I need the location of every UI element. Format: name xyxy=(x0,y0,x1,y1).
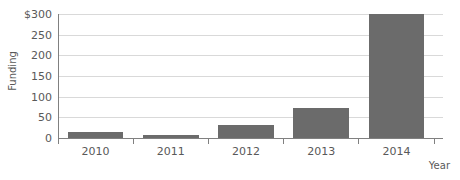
bar-2013[interactable] xyxy=(293,108,349,138)
x-axis-tick xyxy=(58,139,59,144)
x-axis-tick xyxy=(283,139,284,144)
bar-slot xyxy=(133,14,208,138)
x-axis-tick-label: 2014 xyxy=(359,146,434,158)
x-axis-line xyxy=(58,138,443,139)
x-axis-tick xyxy=(208,139,209,144)
y-axis-tick-label: 250 xyxy=(0,30,52,41)
x-axis-tick-label: 2012 xyxy=(208,146,283,158)
y-axis-line xyxy=(58,14,59,139)
y-axis-tick-label: 0 xyxy=(0,133,52,144)
bar-slot xyxy=(359,14,434,138)
bar-chart: $300 250 200 150 100 50 0 Funding xyxy=(0,0,460,180)
x-axis-tick xyxy=(133,139,134,144)
bar-slot xyxy=(284,14,359,138)
x-axis-title: Year xyxy=(429,161,450,171)
y-axis-tick-label: 50 xyxy=(0,112,52,123)
bar-2012[interactable] xyxy=(218,125,274,138)
bars-layer xyxy=(58,14,434,138)
bar-2014[interactable] xyxy=(369,14,425,138)
x-axis-tick xyxy=(358,139,359,144)
x-axis-tick xyxy=(434,139,435,144)
bar-slot xyxy=(208,14,283,138)
bar-slot xyxy=(58,14,133,138)
x-axis-tick-label: 2011 xyxy=(133,146,208,158)
x-axis-tick-label: 2010 xyxy=(58,146,133,158)
x-axis-tick-labels: 2010 2011 2012 2013 2014 xyxy=(58,146,434,158)
plot-area xyxy=(58,14,443,138)
y-axis-title: Funding xyxy=(8,45,18,97)
x-axis-tick-label: 2013 xyxy=(284,146,359,158)
y-axis-tick-label: $300 xyxy=(0,9,52,20)
